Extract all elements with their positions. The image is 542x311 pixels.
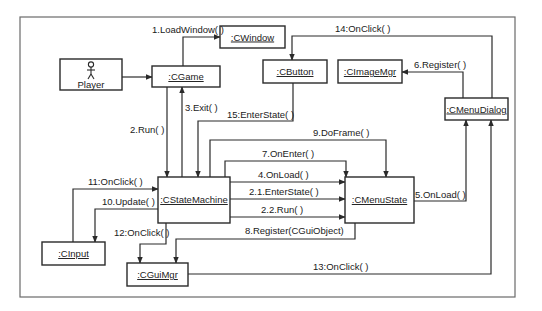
msg-onload-5: 5.OnLoad( ) (415, 189, 466, 200)
cimagemgr-label: :CImageMgr (344, 66, 396, 77)
msg-run: 2.Run( ) (130, 124, 164, 135)
cguimgr-label: :CGuiMgr (137, 269, 178, 280)
msg-enterstate-15: 15:EnterState( ) (227, 109, 294, 120)
cimagemgr-object: :CImageMgr (338, 60, 402, 83)
msg-onenter: 7.OnEnter( ) (262, 148, 314, 159)
msg-onclick-14: 14:OnClick( ) (335, 23, 390, 34)
msg-onclick-12: 12:OnClick( ) (114, 227, 169, 238)
msg-onclick-11: 11:OnClick( ) (88, 176, 143, 187)
msg-loadwindow: 1.LoadWindow( ) (152, 24, 224, 35)
cmenudialog-label: :CMenuDialog (446, 104, 506, 115)
cbutton-object: :CButton (263, 60, 327, 83)
cgame-object: :CGame (152, 66, 220, 87)
player-label: Player (78, 79, 105, 90)
cstatemachine-label: :CStateMachine (160, 194, 228, 205)
msg-doframe: 9.DoFrame( ) (313, 127, 369, 138)
cguimgr-object: :CGuiMgr (127, 263, 188, 286)
cmenudialog-object: :CMenuDialog (445, 98, 508, 120)
cstatemachine-object: :CStateMachine (158, 177, 230, 223)
player-actor: Player (60, 59, 122, 90)
msg-register-6: 6.Register( ) (414, 59, 466, 70)
msg-exit: 3.Exit( ) (185, 102, 218, 113)
msg-run-22: 2.2.Run( ) (261, 204, 303, 215)
cinput-object: :CInput (42, 242, 105, 265)
cwindow-object: :CWindow (220, 26, 285, 48)
cgame-label: :CGame (168, 71, 203, 82)
collaboration-diagram: Player :CGame :CWindow :CButton :CImageM… (0, 0, 542, 311)
msg-onload-4: 4.OnLoad( ) (258, 169, 309, 180)
cwindow-label: :CWindow (231, 32, 274, 43)
msg-onclick-13: 13:OnClick( ) (313, 261, 368, 272)
cmenustate-object: :CMenuState (345, 177, 414, 223)
msg-enterstate-21: 2.1.EnterState( ) (249, 186, 319, 197)
cbutton-label: :CButton (277, 66, 314, 77)
msg-register-8: 8.Register(CGuiObject) (245, 225, 344, 236)
cmenustate-label: :CMenuState (352, 194, 407, 205)
msg-update: 10.Update( ) (102, 196, 155, 207)
cinput-label: :CInput (58, 248, 89, 259)
